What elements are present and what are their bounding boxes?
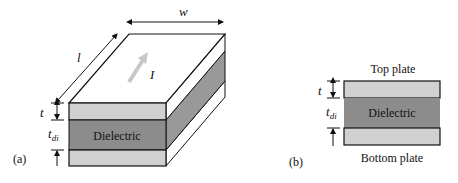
b-dielectric-thickness-label: tdi [326,104,337,121]
b-bottom-plate [344,128,440,145]
dielectric-thickness-label: tdi [48,126,59,143]
top-plate-label: Top plate [371,62,416,76]
capacitor-diagram: Dielectric I w l t tdi (a) Top plate Die… [0,0,458,183]
b-thickness-label: t [318,83,322,98]
width-label: w [179,4,188,19]
figure-a: Dielectric I w l t tdi (a) [13,4,225,166]
figure-b: Top plate Dielectric t tdi Bottom plate … [289,62,440,169]
front-top-plate [69,103,166,120]
figure-b-label: (b) [289,155,303,169]
figure-a-label: (a) [13,152,26,166]
dielectric-label-b: Dielectric [368,106,415,120]
front-bottom-plate [69,150,166,166]
current-label: I [149,67,155,82]
b-top-plate [344,81,440,98]
length-label: l [77,50,81,65]
bottom-plate-label: Bottom plate [361,151,423,165]
dielectric-label-a: Dielectric [93,129,140,143]
thickness-label: t [40,105,44,120]
